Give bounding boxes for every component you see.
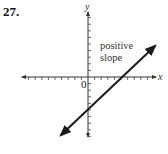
annotation-positive: positive — [100, 40, 134, 51]
origin-label: 0 — [81, 78, 87, 90]
y-axis-label: y — [84, 1, 90, 12]
coordinate-graph: x y 0 positive slope — [0, 0, 168, 154]
annotation-slope: slope — [100, 52, 123, 63]
x-axis-label: x — [157, 71, 163, 82]
